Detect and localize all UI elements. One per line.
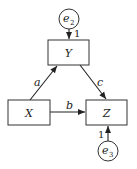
- node-y: Y: [48, 40, 89, 65]
- node-z-label: Z: [102, 107, 111, 120]
- node-e2-label: e: [63, 12, 70, 25]
- node-x-label: X: [24, 107, 34, 120]
- edge-x-z-label: b: [66, 99, 73, 112]
- node-e3: e 3: [98, 141, 118, 161]
- edge-y-z-label: c: [97, 76, 103, 89]
- node-e2: e 2: [59, 9, 79, 29]
- node-z: Z: [86, 100, 127, 125]
- node-e3-subscript: 3: [109, 151, 113, 159]
- edge-x-y-label: a: [34, 76, 41, 89]
- node-e3-label: e: [102, 144, 109, 157]
- node-e2-subscript: 2: [70, 19, 74, 27]
- edge-e2-y-label: 1: [74, 28, 80, 39]
- node-x: X: [8, 100, 50, 125]
- edge-e3-z-label: 1: [98, 129, 104, 140]
- path-diagram: e 2 1 Y X Z e 3 1 a c b: [0, 0, 137, 169]
